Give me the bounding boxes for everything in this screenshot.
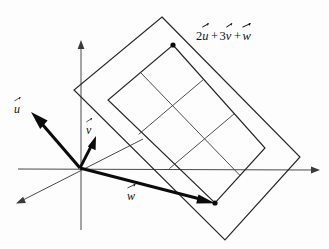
expr-vector-symbol-v: v [226,30,233,43]
diagram-canvas [0,0,329,249]
outer-parallelogram [74,17,300,240]
vector-symbol-v-text: v [86,123,91,137]
expr-vector-symbol-u: u [202,30,209,43]
vector-symbol-u-text: u [14,102,20,116]
expr-operator-1: + [210,29,220,43]
vector-label-w: w [127,190,136,202]
vector-label-v: v [86,124,92,136]
axes-group [16,40,320,230]
expr-operator-2: + [232,29,242,43]
vector-symbol-w: w [127,190,136,202]
horizontal-axis [18,167,320,174]
expr-vector-symbol-u-text: u [202,29,208,43]
vectors-group [31,112,215,204]
depth-axis [16,139,143,204]
vector-w [80,168,215,204]
vector-u [31,112,80,168]
expr-vector-symbol-v-text: v [226,29,232,43]
vertical-axis [78,40,85,230]
linear-combination-label: 2u+3v+w [196,30,252,43]
vector-symbol-u: u [14,103,21,115]
vector-label-u: u [14,103,21,115]
vector-symbol-v: v [86,124,92,136]
vector-diagram-figure: u v w [0,0,329,249]
tip-vertex-dot [170,42,175,47]
expr-vector-symbol-w: w [242,30,251,43]
vector-symbol-w-text: w [127,189,135,203]
inner-grid [139,73,240,176]
vector-v [80,136,96,168]
expr-vector-symbol-w-text: w [242,29,250,43]
w-endpoint-dot [212,200,217,205]
inner-parallelogram [108,45,265,203]
